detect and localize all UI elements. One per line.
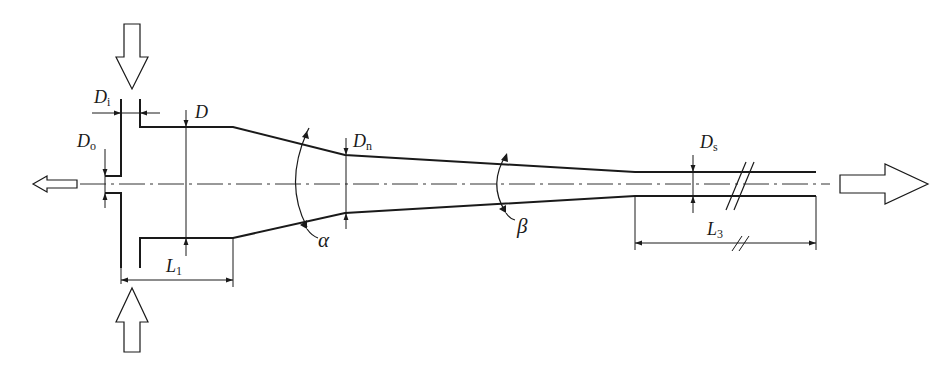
label-Ds: Ds	[700, 133, 718, 153]
pipe-break-mark	[726, 162, 754, 210]
label-Di: Di	[94, 88, 110, 108]
ejector-diagram: Di D Do Dn Ds α β L1 L3	[0, 0, 946, 366]
label-L1: L1	[166, 257, 182, 277]
dim-L3	[635, 196, 816, 251]
label-alpha: α	[318, 230, 329, 251]
label-Dn: Dn	[353, 132, 372, 152]
label-Do: Do	[77, 132, 96, 152]
flow-arrow-outlet-left	[33, 176, 77, 192]
label-beta: β	[517, 216, 527, 237]
flow-arrow-inlet-top	[116, 24, 148, 89]
flow-arrow-inlet-bottom	[116, 288, 148, 352]
angle-beta	[497, 153, 515, 220]
flow-arrow-outlet-right	[840, 164, 928, 204]
label-L3: L3	[707, 220, 723, 240]
label-D: D	[195, 103, 208, 121]
diagram-canvas	[0, 0, 946, 366]
